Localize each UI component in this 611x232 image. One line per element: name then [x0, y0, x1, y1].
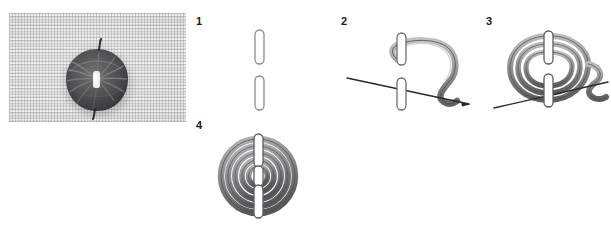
- diagram-sheet: ··· ····· ·· ····· ·· ····: [0, 0, 611, 232]
- step-number-3: 3: [486, 16, 492, 27]
- foundation-stitch-upper: [255, 30, 264, 64]
- step-two-drawing: [341, 16, 481, 116]
- woven-loops: [510, 36, 606, 100]
- step-number-4: 4: [196, 120, 202, 131]
- step-one-figure: 1: [196, 16, 316, 116]
- step-four-figure: 4: [196, 120, 326, 226]
- step-two-figure: 2: [341, 16, 481, 116]
- finished-stitch-photo: [9, 13, 186, 122]
- photographed-woven-wheel: [9, 13, 186, 122]
- foundation-stitch-upper: [254, 134, 263, 167]
- foundation-stitch-lower: [544, 74, 553, 107]
- foundation-stitch-lower: [255, 76, 264, 110]
- step-number-2: 2: [341, 16, 347, 27]
- foundation-stitch-upper: [544, 31, 553, 64]
- foundation-stitch-lower: [397, 78, 406, 110]
- step-three-figure: 3: [486, 16, 611, 116]
- thread-tail-top: [99, 39, 101, 50]
- cropped-caption-text: ··· ····· ·· ····· ·· ····: [62, 0, 312, 2]
- stitch-centre-highlight-core: [94, 73, 98, 85]
- foundation-stitch-lower: [254, 185, 263, 218]
- step-one-drawing: [196, 16, 316, 116]
- step-number-1: 1: [196, 16, 202, 27]
- foundation-stitch-upper: [397, 33, 406, 65]
- step-four-drawing: [196, 120, 326, 226]
- step-three-drawing: [486, 16, 611, 116]
- foundation-stitch-centre: [254, 166, 263, 186]
